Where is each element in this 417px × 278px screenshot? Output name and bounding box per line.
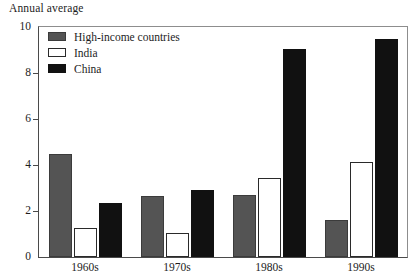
x-axis-tick-label: 1980s xyxy=(255,260,282,274)
chart-title: Annual average xyxy=(9,1,84,15)
bar xyxy=(191,190,214,257)
y-axis-tick-label: 0 xyxy=(0,251,31,263)
bar-group xyxy=(315,27,407,257)
bar xyxy=(375,39,398,258)
legend-item-label: China xyxy=(74,63,101,75)
legend-item: India xyxy=(48,45,218,60)
bar xyxy=(233,195,256,257)
gray-filled-swatch xyxy=(48,32,66,41)
x-axis-tick-label: 1990s xyxy=(347,260,374,274)
bar xyxy=(258,178,281,257)
bar xyxy=(49,154,72,258)
white-outlined-swatch xyxy=(48,48,66,57)
bar xyxy=(325,220,348,257)
y-axis-tick-label: 2 xyxy=(0,205,31,217)
bar xyxy=(74,228,97,257)
x-axis-tick-labels: 1960s1970s1980s1990s xyxy=(39,260,407,278)
black-filled-swatch xyxy=(48,64,66,73)
y-axis-tick-labels: 0246810 xyxy=(0,26,31,258)
y-axis-tick-label: 4 xyxy=(0,159,31,171)
x-axis-tick-label: 1960s xyxy=(71,260,98,274)
bar xyxy=(283,49,306,257)
y-axis-tick-label: 8 xyxy=(0,67,31,79)
legend-item: High-income countries xyxy=(48,29,218,44)
bar-group xyxy=(223,27,315,257)
legend-item: China xyxy=(48,61,218,76)
y-axis-tick-label: 6 xyxy=(0,113,31,125)
bar xyxy=(350,162,373,257)
bar xyxy=(99,203,122,257)
chart-legend: High-income countriesIndiaChina xyxy=(48,29,218,77)
x-axis-tick-label: 1970s xyxy=(163,260,190,274)
bar xyxy=(166,233,189,257)
legend-item-label: High-income countries xyxy=(74,31,180,43)
y-axis-tick-label: 10 xyxy=(0,21,31,33)
bar xyxy=(141,196,164,257)
legend-item-label: India xyxy=(74,47,98,59)
